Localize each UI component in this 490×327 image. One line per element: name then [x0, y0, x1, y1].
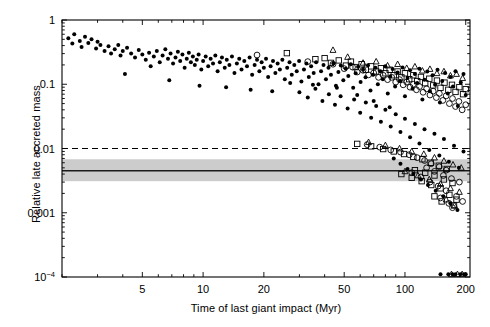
data-point [427, 66, 433, 72]
data-point [438, 85, 443, 90]
data-point [319, 69, 323, 73]
data-point [113, 47, 117, 51]
data-point [204, 55, 208, 59]
scatter-plot: 510205010020010.10.010.00110−4 [0, 0, 490, 327]
data-point [276, 62, 280, 66]
data-point [152, 55, 156, 59]
data-point [254, 52, 260, 58]
data-point [360, 60, 366, 66]
data-point [374, 104, 378, 108]
tick-labels-layer: 510205010020010.10.010.00110−4 [27, 14, 474, 295]
data-point [72, 32, 76, 36]
data-point [369, 116, 373, 120]
data-point [185, 57, 189, 61]
data-point [83, 35, 87, 39]
data-point [220, 56, 224, 60]
data-point [459, 107, 465, 113]
data-point [269, 64, 273, 68]
data-point [171, 62, 175, 66]
data-point [432, 194, 437, 199]
data-point [199, 67, 203, 71]
data-point [382, 142, 388, 148]
data-point [288, 81, 292, 85]
data-point [230, 55, 234, 59]
data-point [295, 69, 299, 73]
data-points-layer [66, 32, 468, 276]
data-point [403, 94, 407, 98]
data-point [270, 89, 274, 93]
data-point [257, 69, 261, 73]
data-point [206, 64, 210, 68]
figure: 510205010020010.10.010.00110−4 Relative … [0, 0, 490, 327]
data-point [158, 60, 162, 64]
series-filled-circles [66, 32, 467, 276]
data-point [249, 88, 253, 92]
data-point [174, 56, 178, 60]
data-point [201, 59, 205, 63]
data-point [297, 90, 301, 94]
data-point [402, 71, 407, 76]
x-axis-label: Time of last giant impact (Myr) [62, 302, 470, 314]
data-point [80, 45, 84, 49]
data-point [255, 58, 259, 62]
data-point [224, 85, 228, 89]
data-point [183, 66, 187, 70]
data-point [216, 69, 220, 73]
data-point [424, 86, 430, 92]
x-tick-label: 100 [396, 283, 414, 295]
data-point [389, 124, 393, 128]
data-point [373, 58, 379, 64]
data-point [436, 91, 442, 97]
data-point [345, 54, 351, 60]
data-point [358, 111, 362, 115]
data-point [386, 91, 390, 95]
data-point [413, 122, 417, 126]
data-point [280, 58, 284, 62]
data-point [237, 57, 241, 61]
data-point [450, 96, 456, 102]
data-point [123, 72, 127, 76]
data-point [442, 137, 446, 141]
data-point [324, 77, 328, 81]
data-point [322, 63, 326, 67]
x-tick-label: 10 [197, 283, 209, 295]
data-point [140, 53, 144, 57]
data-point [388, 105, 392, 109]
data-point [329, 73, 333, 77]
data-point [193, 63, 197, 67]
data-point [155, 49, 159, 53]
data-point [452, 144, 456, 148]
data-point [322, 55, 327, 60]
data-point [379, 120, 383, 124]
data-point [404, 65, 410, 71]
data-point [432, 132, 436, 136]
data-point [213, 54, 217, 58]
data-point [109, 52, 113, 56]
data-point [187, 51, 191, 55]
data-point [96, 40, 100, 44]
data-point [437, 153, 441, 157]
data-point [232, 71, 236, 75]
data-point [432, 154, 438, 160]
x-tick-label: 50 [338, 283, 350, 295]
data-point [383, 108, 387, 112]
data-point [273, 71, 277, 75]
data-point [346, 74, 350, 78]
data-point [211, 62, 215, 66]
data-point [351, 86, 355, 90]
data-point [401, 66, 405, 70]
data-point [89, 37, 93, 41]
data-point [161, 54, 165, 58]
data-point [333, 103, 337, 107]
data-point [326, 66, 330, 70]
data-point [433, 95, 439, 101]
data-point [147, 51, 151, 55]
data-point [462, 149, 466, 153]
data-point [355, 141, 360, 146]
x-tick-label: 20 [258, 283, 270, 295]
data-point [423, 127, 427, 131]
data-point [288, 60, 292, 64]
data-point [336, 58, 341, 63]
data-point [312, 71, 316, 75]
data-point [198, 84, 202, 88]
